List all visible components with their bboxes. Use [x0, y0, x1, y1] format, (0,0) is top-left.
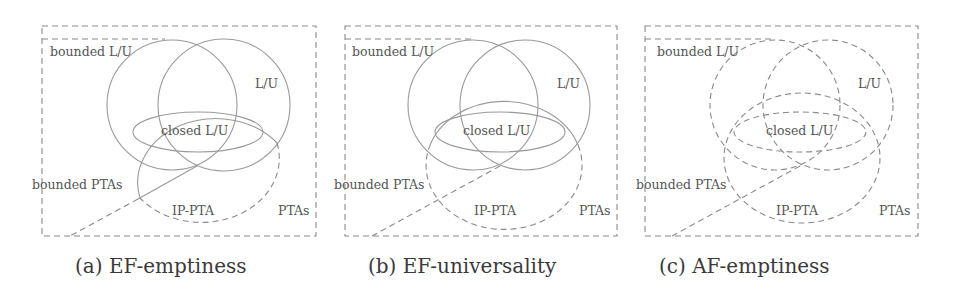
label-bounded-ptas: bounded PTAs	[32, 177, 123, 192]
label-lu: L/U	[255, 76, 278, 91]
label-bounded-lu: bounded L/U	[352, 44, 434, 59]
caption-a: (a) EF-emptiness	[75, 254, 247, 278]
figure: bounded L/U L/U closed L/U bounded PTAs …	[0, 0, 956, 300]
bounded-ptas-boundary-solid	[138, 166, 197, 199]
label-bounded-lu: bounded L/U	[657, 44, 739, 59]
caption-c: (c) AF-emptiness	[659, 254, 830, 278]
label-closed-lu: closed L/U	[161, 123, 228, 138]
label-ptas: PTAs	[278, 203, 310, 218]
panel-c: bounded L/U L/U closed L/U bounded PTAs …	[636, 26, 918, 278]
label-ptas: PTAs	[579, 203, 611, 218]
caption-b: (b) EF-universality	[368, 254, 557, 278]
label-bounded-ptas: bounded PTAs	[636, 177, 727, 192]
label-ip-pta: IP-PTA	[474, 203, 517, 218]
label-closed-lu: closed L/U	[463, 123, 530, 138]
label-closed-lu: closed L/U	[766, 123, 833, 138]
label-lu: L/U	[858, 76, 881, 91]
venn-diagrams: bounded L/U L/U closed L/U bounded PTAs …	[0, 0, 956, 300]
label-bounded-lu: bounded L/U	[50, 44, 132, 59]
panel-b: bounded L/U L/U closed L/U bounded PTAs …	[334, 26, 617, 278]
label-lu: L/U	[557, 76, 580, 91]
label-ip-pta: IP-PTA	[776, 203, 819, 218]
bounded-ptas-boundary-dashed	[70, 199, 138, 236]
label-ptas: PTAs	[879, 203, 911, 218]
label-ip-pta: IP-PTA	[172, 203, 215, 218]
panel-a: bounded L/U L/U closed L/U bounded PTAs …	[32, 26, 316, 278]
label-bounded-ptas: bounded PTAs	[334, 177, 425, 192]
